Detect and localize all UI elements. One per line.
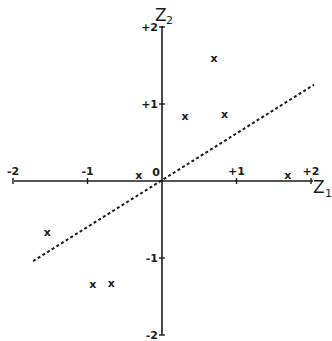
data-point-x-marker: x bbox=[108, 277, 115, 290]
x-axis-title-subscript: 1 bbox=[325, 187, 332, 200]
data-point-x-marker: x bbox=[284, 169, 291, 182]
data-point-x-marker: x bbox=[211, 52, 218, 65]
data-point-x-marker: x bbox=[135, 169, 142, 182]
x-tick-label: -1 bbox=[81, 165, 93, 178]
data-point-x-marker: x bbox=[182, 110, 189, 123]
data-point-x-marker: x bbox=[221, 108, 228, 121]
reference-dashed-line bbox=[33, 85, 314, 261]
origin-label: 0 bbox=[152, 166, 160, 179]
x-axis-title-main: Z bbox=[313, 177, 325, 197]
x-axis-title: Z 1 bbox=[313, 177, 332, 200]
data-point-x-marker: x bbox=[89, 278, 96, 291]
y-tick-label: +1 bbox=[141, 98, 158, 111]
y-tick-label: -2 bbox=[146, 329, 158, 341]
x-tick-label: -2 bbox=[7, 165, 19, 178]
data-point-x-marker: x bbox=[44, 226, 51, 239]
axes bbox=[14, 26, 313, 335]
y-axis-title-subscript: 2 bbox=[166, 14, 173, 27]
y-axis-title-main: Z bbox=[155, 5, 167, 25]
scatter-plot: -2-1+1+20+2+1-1-2 Z 1 Z 2 xxxxxxxx bbox=[0, 0, 332, 341]
x-tick-label: +1 bbox=[228, 165, 245, 178]
y-tick-label: -1 bbox=[146, 252, 158, 265]
y-axis-title: Z 2 bbox=[155, 5, 173, 27]
